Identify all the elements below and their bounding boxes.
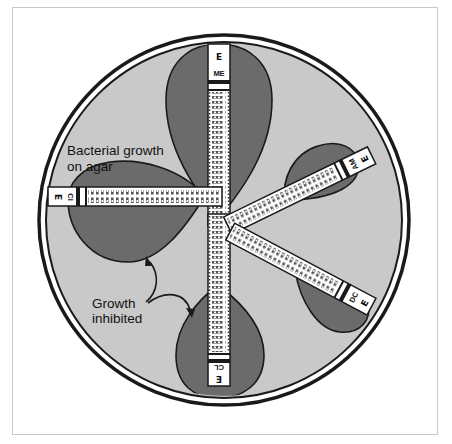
e-logo-icon: E	[216, 374, 222, 384]
e-logo-icon: E	[53, 194, 63, 200]
label-growth-inhibited-line1: Growth	[92, 296, 136, 311]
strip-label-top: ME	[213, 69, 224, 78]
label-growth-inhibited-line2: inhibited	[92, 311, 142, 326]
strip-left: E CI	[48, 187, 222, 206]
strip-label-left: CI	[66, 193, 75, 201]
strip-label-bottom: CL	[214, 363, 224, 372]
e-logo-icon: E	[216, 52, 222, 62]
label-bacterial-growth-line1: Bacterial growth	[67, 143, 164, 158]
e-test-diagram: E ME E CI CL E AM E	[0, 0, 452, 444]
label-bacterial-growth-line2: on agar	[67, 159, 113, 174]
